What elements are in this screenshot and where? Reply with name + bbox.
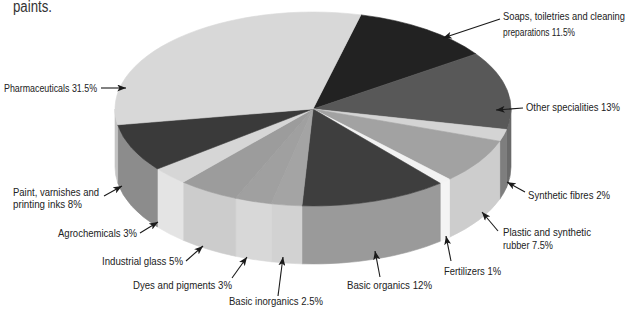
label-synthetic-fibres: Synthetic fibres 2% — [528, 189, 610, 201]
pie-side-slice-7 — [236, 198, 272, 262]
arrow-soaps — [443, 19, 500, 38]
label-soaps-line1: Soaps, toiletries and cleaning — [503, 10, 625, 22]
label-basic-inorganics: Basic inorganics 2.5% — [229, 295, 323, 307]
arrow-agrochemicals — [140, 222, 158, 233]
arrow-paint — [104, 186, 122, 196]
arrow-synthetic-fibres — [507, 182, 525, 192]
label-agrochemicals: Agrochemicals 3% — [58, 227, 137, 239]
label-other-specialities: Other specialities 13% — [526, 101, 620, 113]
pie-side-slice-4 — [440, 179, 449, 241]
pie-chart — [115, 12, 511, 264]
label-plastic-line1: Plastic and synthetic — [503, 226, 591, 238]
arrow-dyes-pigments — [232, 257, 247, 278]
pie-chart-figure: paints. Soaps, toiletries and cleaning p… — [0, 0, 626, 312]
label-pharmaceuticals: Pharmaceuticals 31.5% — [4, 82, 97, 94]
arrow-fertilizers — [446, 236, 451, 261]
pie-side-slice-6 — [271, 204, 302, 264]
label-paint-line2: printing inks 8% — [13, 198, 82, 210]
arrow-industrial-glass — [186, 246, 203, 261]
pie-top-faces — [115, 12, 511, 206]
label-basic-organics: Basic organics 12% — [347, 279, 432, 291]
label-fertilizers: Fertilizers 1% — [444, 265, 501, 277]
caption-fragment: paints. — [13, 0, 52, 15]
label-industrial-glass: Industrial glass 5% — [102, 255, 183, 267]
label-plastic-line2: rubber 7.5% — [503, 239, 553, 251]
label-soaps-line2: preparations 11.5% — [503, 26, 575, 38]
label-dyes-pigments: Dyes and pigments 3% — [133, 279, 232, 291]
arrow-plastic-rubber — [482, 212, 498, 231]
label-paint-line1: Paint, varnishes and — [13, 186, 99, 198]
